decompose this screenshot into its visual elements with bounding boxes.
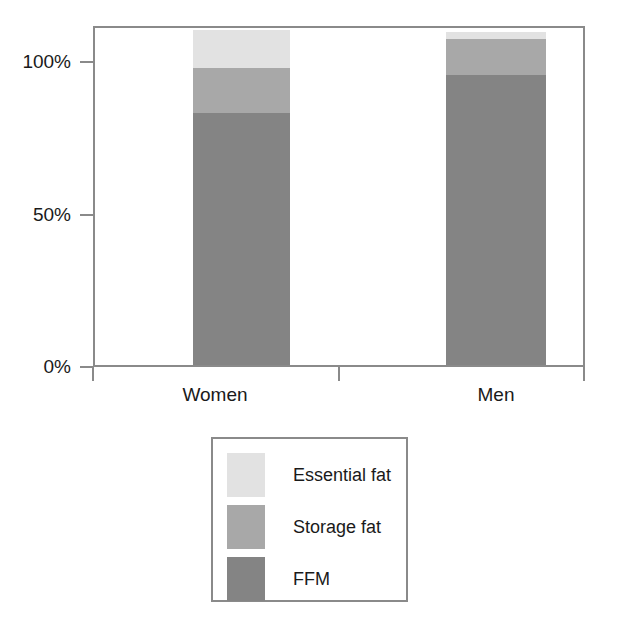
y-axis-tick-mark-100: [80, 61, 93, 63]
x-axis-tick-mark-right: [583, 367, 585, 381]
y-axis-tick-label-0: 0%: [44, 355, 71, 379]
chart-legend: Essential fat Storage fat FFM: [211, 437, 408, 602]
x-axis-tick-mark-left: [92, 367, 94, 381]
bar-segment-women-ffm[interactable]: [193, 113, 290, 365]
legend-item-storage-fat[interactable]: Storage fat: [227, 505, 402, 549]
y-axis-tick-label-100: 100%: [22, 50, 71, 74]
legend-item-essential-fat[interactable]: Essential fat: [227, 453, 402, 497]
x-axis-label-men: Men: [436, 383, 556, 407]
legend-swatch-ffm: [227, 557, 265, 601]
legend-label-storage-fat: Storage fat: [293, 515, 381, 539]
bar-segment-men-ffm[interactable]: [446, 75, 546, 365]
legend-swatch-essential-fat: [227, 453, 265, 497]
x-axis-tick-mark-middle: [338, 367, 340, 381]
y-axis-tick-label-50: 50%: [33, 203, 71, 227]
plot-area: [95, 28, 583, 365]
bar-men[interactable]: [446, 26, 546, 365]
bar-segment-women-essential-fat[interactable]: [193, 30, 290, 68]
x-axis-label-women: Women: [155, 383, 275, 407]
stacked-bar-chart-figure: 100% 50% 0%: [0, 0, 617, 630]
legend-swatch-storage-fat: [227, 505, 265, 549]
bar-segment-women-storage-fat[interactable]: [193, 68, 290, 113]
y-axis-tick-mark-50: [80, 214, 93, 216]
plot-frame: [93, 26, 585, 367]
bar-women[interactable]: [193, 26, 290, 365]
bar-segment-men-storage-fat[interactable]: [446, 39, 546, 75]
legend-label-ffm: FFM: [293, 567, 330, 591]
legend-item-ffm[interactable]: FFM: [227, 557, 402, 601]
legend-label-essential-fat: Essential fat: [293, 463, 391, 487]
bar-segment-men-essential-fat[interactable]: [446, 32, 546, 39]
